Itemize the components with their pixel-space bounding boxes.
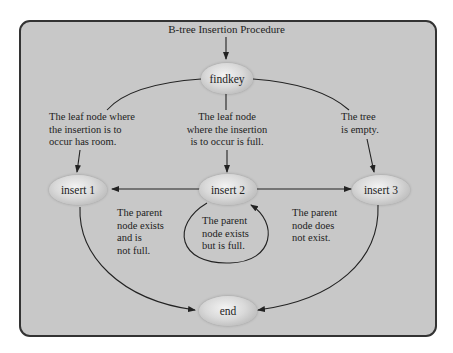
label-line: The leaf node where (49, 111, 135, 124)
node-insert2: insert 2 (199, 174, 257, 205)
label-line: The parent (292, 207, 337, 220)
edge-findkey-right-arc (253, 79, 349, 110)
label-line: not exist. (292, 232, 337, 245)
node-insert3: insert 3 (352, 175, 410, 205)
node-end: end (199, 296, 257, 326)
label-line: and is (117, 232, 164, 245)
label-line: node exists (117, 220, 164, 233)
label-line: node exists (202, 228, 249, 241)
label-line: node does (292, 220, 337, 233)
label-line: but is full. (202, 240, 249, 253)
condition-tree-empty: The tree is empty. (341, 111, 379, 136)
edge-findkey-left-arc (107, 79, 201, 110)
edge-to-insert1 (77, 150, 80, 172)
label-line: where the insertion (177, 124, 277, 137)
condition-parent-exists-not-full: The parent node exists and is not full. (117, 207, 164, 257)
node-insert3-label: insert 3 (364, 184, 398, 196)
label-line: The parent (202, 215, 249, 228)
condition-parent-exists-full: The parent node exists but is full. (202, 215, 249, 253)
node-insert2-label: insert 2 (211, 184, 245, 196)
edge-to-insert3 (367, 139, 374, 172)
condition-parent-not-exist: The parent node does not exist. (292, 207, 337, 245)
label-line: the insertion is to (49, 124, 135, 137)
diagram-title: B-tree Insertion Procedure (0, 23, 453, 35)
node-insert1-label: insert 1 (61, 184, 95, 196)
label-line: occur has room. (49, 136, 135, 149)
label-line: not full. (117, 245, 164, 258)
label-line: is empty. (341, 124, 379, 137)
node-insert1: insert 1 (49, 175, 107, 205)
node-end-label: end (220, 305, 237, 317)
node-findkey-label: findkey (209, 73, 244, 85)
label-line: The leaf node (177, 111, 277, 124)
node-findkey: findkey (201, 63, 253, 94)
label-line: The tree (341, 111, 379, 124)
label-line: The parent (117, 207, 164, 220)
condition-leaf-has-room: The leaf node where the insertion is to … (49, 111, 135, 149)
label-line: is to occur is full. (177, 136, 277, 149)
condition-leaf-full: The leaf node where the insertion is to … (177, 111, 277, 149)
